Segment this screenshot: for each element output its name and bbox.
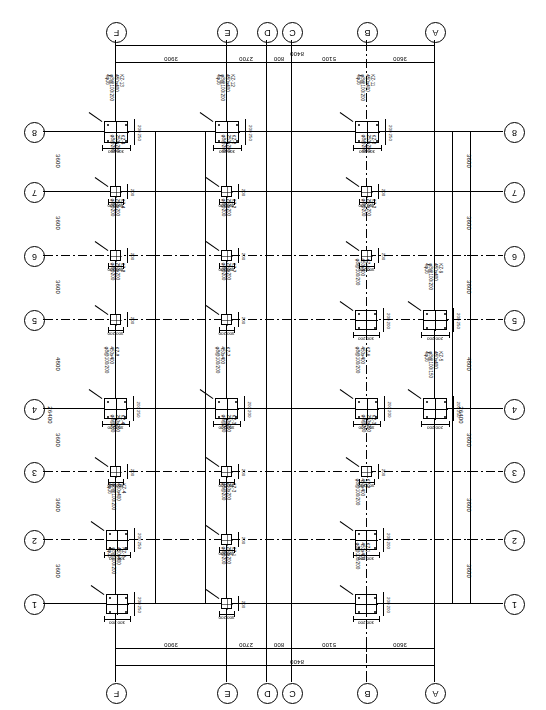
grid-bubble-bottom-C[interactable]: C — [282, 683, 303, 704]
column-dim-right-c-4-E: 200 200 — [247, 394, 251, 425]
top-overall-dim-line — [115, 45, 434, 46]
column-c-4-A[interactable] — [423, 398, 447, 419]
column-c-3-B[interactable] — [361, 466, 372, 477]
column-stirrup-c-4-F: φ8@100/200 — [104, 346, 109, 380]
column-stirrup-c-6-E: φ8@200 — [221, 198, 226, 232]
left-dimension-chain-tick — [152, 255, 159, 256]
column-rebar-bar-h — [356, 132, 380, 133]
top-dimension-chain-text-0: 3900 — [157, 56, 185, 62]
column-dim-line-right-c-7-B — [378, 184, 379, 199]
column-leader-c-7-E — [206, 177, 220, 187]
column-rebar-dot — [236, 124, 238, 126]
grid-bubble-left-3[interactable]: 3 — [24, 462, 45, 483]
column-section-c-8-F: 450x400 — [114, 74, 119, 108]
grid-bubble-top-B[interactable]: B — [357, 22, 378, 43]
grid-bubble-top-A[interactable]: A — [425, 22, 446, 43]
grid-bubble-right-6[interactable]: 6 — [504, 246, 525, 267]
grid-bubble-right-1[interactable]: 1 — [504, 594, 525, 615]
column-dim-line-right-c-7-F — [127, 184, 128, 199]
grid-bubble-right-8[interactable]: 8 — [504, 122, 525, 143]
grid-bubble-bottom-D[interactable]: D — [257, 683, 278, 704]
grid-bubble-label: E — [224, 28, 230, 37]
grid-bubble-left-7[interactable]: 7 — [24, 182, 45, 203]
column-dim-line-right-c-1-B — [383, 592, 384, 616]
column-rebar-dot — [444, 401, 446, 403]
grid-bubble-top-F[interactable]: F — [106, 22, 127, 43]
right-dimension-chain-text-3: 4800 — [466, 350, 472, 378]
left-dimension-chain-tick — [152, 191, 159, 192]
column-c-3-E[interactable] — [221, 466, 232, 477]
left-dimension-chain-text-5: 3600 — [55, 491, 61, 519]
column-dim-right-c-6-F: 200 — [130, 246, 134, 267]
column-rebar-dot — [125, 597, 127, 599]
grid-bubble-left-4[interactable]: 4 — [24, 399, 45, 420]
grid-bubble-left-6[interactable]: 6 — [24, 246, 45, 267]
column-c-6-E[interactable] — [221, 250, 232, 261]
column-c-5-A[interactable] — [423, 310, 447, 330]
column-c-2-E[interactable] — [221, 534, 232, 545]
column-callout-c-8-F: KZ-13450x400φ8@100/2004φ16 — [104, 74, 123, 108]
column-c-6-F[interactable] — [110, 250, 121, 261]
grid-bubble-bottom-F[interactable]: F — [106, 683, 127, 704]
column-leader-c-4-A — [408, 389, 422, 399]
grid-bubble-bottom-E[interactable]: E — [217, 683, 238, 704]
column-c-5-E[interactable] — [221, 314, 232, 325]
column-c-1-E[interactable] — [221, 598, 232, 609]
column-c-7-F[interactable] — [110, 186, 121, 197]
grid-bubble-top-C[interactable]: C — [282, 22, 303, 43]
column-c-1-F[interactable] — [106, 594, 128, 614]
column-c-3-F[interactable] — [110, 466, 121, 477]
column-c-7-B[interactable] — [361, 186, 372, 197]
column-dim-bottom-c-5-A: 200 200 — [417, 336, 453, 340]
grid-bubble-right-7[interactable]: 7 — [504, 182, 525, 203]
bubble-stem-right-6 — [499, 255, 503, 256]
grid-bubble-left-2[interactable]: 2 — [24, 530, 45, 551]
column-rebar-bar-v — [435, 311, 436, 331]
column-rebar-bar-h — [424, 320, 448, 321]
bottom-dimension-chain-tick — [115, 645, 116, 652]
grid-bubble-left-8[interactable]: 8 — [24, 122, 45, 143]
column-rebar-dot — [124, 401, 126, 403]
column-dim-bottom-c-5-E: 300 200 — [215, 331, 238, 335]
column-callout-c-8-E: KZ-12450x400φ8@100/2004φ16 — [215, 74, 234, 108]
column-rebar-bar-v — [367, 187, 368, 198]
column-dim-line-right-c-3-F — [127, 464, 128, 479]
column-rebar-dot — [358, 313, 360, 315]
column-dim-right-c-5-B: 200 200 — [386, 306, 390, 336]
column-dim-right-c-6-B: 200 — [381, 246, 385, 267]
grid-bubble-label: 2 — [512, 536, 517, 545]
bubble-stem-left-2 — [43, 539, 47, 540]
right-dimension-chain-text-4: 3600 — [466, 426, 472, 454]
grid-bubble-bottom-A[interactable]: A — [425, 683, 446, 704]
column-dim-line-right-c-5-E — [238, 312, 239, 327]
column-rebar-bar-h — [216, 132, 240, 133]
bottom-dimension-chain-text-4: 3600 — [386, 642, 414, 648]
column-rebar-dot — [374, 611, 376, 613]
column-c-5-F[interactable] — [110, 314, 121, 325]
column-c-5-B[interactable] — [355, 310, 377, 330]
column-rebar-c-8-E: 4φ16 — [215, 74, 220, 108]
grid-bubble-left-1[interactable]: 1 — [24, 594, 45, 615]
column-leader-c-6-B — [346, 241, 360, 251]
left-dimension-chain-tick — [152, 539, 159, 540]
grid-bubble-top-D[interactable]: D — [257, 22, 278, 43]
grid-bubble-top-E[interactable]: E — [217, 22, 238, 43]
column-c-7-E[interactable] — [221, 186, 232, 197]
column-rebar-bar-v — [366, 311, 367, 331]
column-leader-c-3-E — [206, 457, 220, 467]
column-section-c-6-B: 250x200 — [366, 198, 371, 232]
column-rebar-dot — [109, 611, 111, 613]
column-rebar-dot — [358, 611, 360, 613]
column-section-c-3-E: 250x200 — [226, 414, 231, 448]
grid-bubble-right-4[interactable]: 4 — [504, 399, 525, 420]
grid-bubble-bottom-B[interactable]: B — [357, 683, 378, 704]
column-dim-right-c-2-B: 200 200 — [386, 526, 390, 556]
grid-bubble-left-5[interactable]: 5 — [24, 310, 45, 331]
left-dimension-chain-text-6: 3600 — [55, 557, 61, 585]
column-c-1-B[interactable] — [355, 594, 377, 614]
left-dimension-chain-tick-end — [152, 603, 159, 604]
grid-bubble-right-5[interactable]: 5 — [504, 310, 525, 331]
grid-bubble-right-3[interactable]: 3 — [504, 462, 525, 483]
grid-bubble-right-2[interactable]: 2 — [504, 530, 525, 551]
column-leader-c-1-F — [91, 585, 105, 595]
